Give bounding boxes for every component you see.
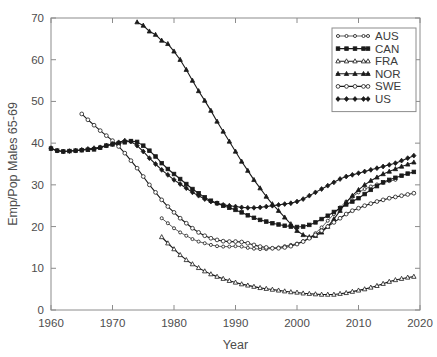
- data-point-marker: [190, 262, 194, 266]
- data-point-marker: [196, 265, 200, 269]
- y-tick-label: 20: [31, 221, 44, 233]
- data-point-marker: [289, 201, 293, 206]
- data-point-marker: [412, 153, 416, 158]
- data-point-marker: [228, 245, 231, 248]
- data-point-marker: [209, 272, 213, 276]
- data-point-marker: [375, 166, 379, 171]
- y-tick-label: 0: [38, 304, 44, 316]
- x-tick-label: 1960: [38, 317, 64, 329]
- data-point-marker: [246, 205, 250, 210]
- data-point-marker: [209, 236, 213, 240]
- data-point-marker: [399, 276, 403, 280]
- data-point-marker: [387, 178, 391, 182]
- data-point-marker: [252, 243, 256, 247]
- data-point-marker: [381, 181, 385, 185]
- x-axis-title: Year: [223, 338, 248, 352]
- data-point-marker: [400, 174, 404, 178]
- data-point-marker: [240, 205, 244, 210]
- legend-label-aus: AUS: [375, 30, 399, 42]
- data-point-marker: [270, 287, 274, 291]
- data-point-marker: [400, 194, 404, 198]
- data-point-marker: [276, 288, 280, 292]
- legend-label-us: US: [375, 93, 391, 105]
- data-point-marker: [271, 221, 275, 225]
- data-point-marker: [80, 112, 84, 116]
- data-point-marker: [295, 199, 299, 204]
- data-point-marker: [320, 229, 324, 233]
- data-point-marker: [252, 205, 256, 210]
- data-point-marker: [178, 177, 182, 181]
- y-tick-label: 70: [31, 12, 44, 24]
- data-point-marker: [258, 245, 262, 249]
- data-point-marker: [381, 172, 385, 176]
- series-us: [49, 138, 416, 210]
- data-point-marker: [412, 191, 416, 195]
- data-point-marker: [345, 34, 348, 37]
- data-point-marker: [123, 151, 127, 155]
- data-point-marker: [326, 183, 330, 188]
- data-point-marker: [369, 285, 373, 289]
- data-point-marker: [387, 279, 391, 283]
- data-point-marker: [350, 289, 354, 293]
- data-point-marker: [277, 246, 281, 250]
- data-point-marker: [301, 225, 305, 229]
- data-point-marker: [92, 123, 96, 127]
- data-point-marker: [289, 290, 293, 294]
- data-point-marker: [353, 34, 356, 37]
- x-tick-label: 2020: [407, 317, 433, 329]
- data-point-marker: [246, 214, 250, 218]
- line-chart: 1960197019801990200020102020010203040506…: [0, 0, 437, 357]
- data-point-marker: [332, 292, 336, 296]
- data-point-marker: [233, 280, 237, 284]
- series-line: [51, 141, 414, 227]
- data-point-marker: [351, 200, 355, 204]
- data-point-marker: [369, 185, 372, 188]
- data-point-marker: [271, 246, 275, 250]
- x-tick-label: 1990: [223, 317, 249, 329]
- data-point-marker: [301, 232, 305, 236]
- data-point-marker: [166, 222, 169, 225]
- data-point-marker: [338, 291, 342, 295]
- data-point-marker: [375, 200, 379, 204]
- data-point-marker: [320, 217, 324, 221]
- data-point-marker: [197, 231, 201, 235]
- x-tick-label: 1980: [161, 317, 187, 329]
- data-point-marker: [362, 287, 366, 291]
- data-point-marker: [221, 239, 225, 243]
- data-point-marker: [366, 34, 369, 37]
- series-line: [82, 114, 414, 248]
- y-axis-title: Emp/Pop Males 65-69: [6, 102, 20, 226]
- data-point-marker: [362, 85, 366, 89]
- data-point-marker: [369, 167, 373, 172]
- data-point-marker: [363, 192, 367, 196]
- data-point-marker: [345, 85, 349, 89]
- data-point-marker: [319, 292, 323, 296]
- data-point-marker: [399, 158, 403, 163]
- data-point-marker: [264, 286, 268, 290]
- data-point-marker: [252, 216, 256, 220]
- data-point-marker: [387, 196, 391, 200]
- y-tick-label: 40: [31, 137, 44, 149]
- data-point-marker: [345, 47, 349, 51]
- data-point-marker: [258, 205, 262, 210]
- data-point-marker: [166, 205, 170, 209]
- data-point-marker: [363, 204, 367, 208]
- data-point-marker: [227, 240, 231, 244]
- data-point-marker: [216, 245, 219, 248]
- data-point-marker: [393, 167, 397, 171]
- legend-label-nor: NOR: [375, 68, 401, 80]
- data-point-marker: [313, 190, 317, 195]
- data-point-marker: [381, 198, 385, 202]
- data-point-marker: [283, 202, 287, 207]
- data-point-marker: [369, 188, 373, 192]
- data-point-marker: [166, 41, 170, 45]
- data-point-marker: [148, 149, 152, 153]
- y-tick-label: 30: [31, 179, 44, 191]
- data-point-marker: [387, 162, 391, 167]
- data-point-marker: [221, 276, 225, 280]
- data-point-marker: [264, 204, 268, 209]
- data-point-marker: [406, 156, 410, 161]
- data-point-marker: [332, 210, 336, 214]
- data-point-marker: [338, 177, 342, 182]
- data-point-marker: [366, 47, 370, 51]
